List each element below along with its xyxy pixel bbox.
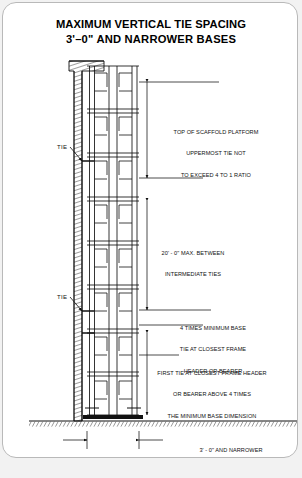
note-first-tie: FIRST TIE AT CLOSEST FRAME HEADER OR BEA…: [133, 355, 291, 435]
frame-braces: [95, 73, 133, 399]
note-line: 4 TIMES MINIMUM BASE: [151, 325, 275, 332]
note-minimum-base-dimension: 3' - 0" AND NARROWER MINIMUM BASE DIMENS…: [167, 432, 295, 458]
note-line: OR BEARER ABOVE 4 TIMES: [133, 391, 291, 398]
note-line: FIRST TIE AT CLOSEST FRAME HEADER: [133, 370, 291, 377]
note-line: TO EXCEED 4 TO 1 RATIO: [141, 172, 291, 179]
diagram-card: MAXIMUM VERTICAL TIE SPACING 3'–0" AND N…: [2, 2, 298, 458]
note-line: 20' - 0" MAX. BETWEEN: [135, 250, 251, 257]
note-line: TIE AT CLOSEST FRAME: [151, 346, 275, 353]
note-line: UPPERMOST TIE NOT: [141, 150, 291, 157]
tie-label-lower: TIE: [57, 294, 67, 300]
note-line: THE MINIMUM BASE DIMENSION: [133, 413, 291, 420]
tie-label-upper: TIE: [57, 144, 67, 150]
note-top-of-scaffold-platform: TOP OF SCAFFOLD PLATFORM UPPERMOST TIE N…: [141, 114, 291, 194]
note-line: TOP OF SCAFFOLD PLATFORM: [141, 129, 291, 136]
note-intermediate-tie-spacing: 20' - 0" MAX. BETWEEN INTERMEDIATE TIES: [135, 235, 251, 293]
note-line: 3' - 0" AND NARROWER: [167, 447, 295, 454]
note-line: INTERMEDIATE TIES: [135, 271, 251, 278]
